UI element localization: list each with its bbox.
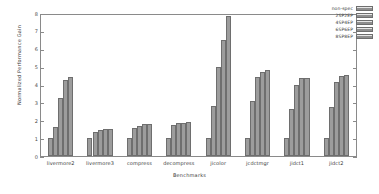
x-tick-label-livermore2: livermore2 — [41, 160, 80, 166]
bar-jidct1-8SP8EP — [304, 78, 309, 156]
bar-decompress-8SP8EP — [186, 122, 191, 156]
bar-livermore2-8SP8EP — [68, 77, 73, 156]
legend-item-8SP8EP: 8SP8EP — [332, 33, 373, 39]
legend-label-2SP2EP: 2SP2EP — [336, 13, 353, 18]
legend-swatch-non-spec — [356, 6, 373, 11]
x-tick-label-jidct1: jidct1 — [277, 160, 316, 166]
legend-swatch-6SP6EP — [356, 27, 373, 32]
x-tick-label-decompress: decompress — [159, 160, 198, 166]
legend-label-6SP6EP: 6SP6EP — [336, 27, 353, 32]
legend: non-spec2SP2EP4SP4EP6SP6EP8SP8EP — [329, 3, 376, 41]
legend-label-8SP8EP: 8SP8EP — [336, 34, 353, 39]
x-tick-label-jicolor: jicolor — [199, 160, 238, 166]
legend-item-6SP6EP: 6SP6EP — [332, 26, 373, 32]
x-tick-label-compress: compress — [120, 160, 159, 166]
bars-layer — [41, 15, 356, 156]
x-tick-label-jidct2: jidct2 — [317, 160, 356, 166]
y-axis-title: Normalized Performance Gain — [16, 0, 22, 130]
x-tick-label-jcdctmgr: jcdctmgr — [238, 160, 277, 166]
x-tick-label-livermore3: livermore3 — [80, 160, 119, 166]
y-tick-mark-0 — [40, 157, 44, 158]
bar-jicolor-8SP8EP — [226, 16, 231, 156]
legend-label-non-spec: non-spec — [332, 6, 353, 11]
legend-swatch-4SP4EP — [356, 20, 373, 25]
bar-jcdctmgr-8SP8EP — [265, 70, 270, 156]
legend-item-2SP2EP: 2SP2EP — [332, 12, 373, 18]
legend-item-non-spec: non-spec — [332, 5, 373, 11]
legend-swatch-2SP2EP — [356, 13, 373, 18]
y-tick-label-0: 0 — [0, 155, 38, 160]
bar-livermore3-8SP8EP — [108, 129, 113, 156]
legend-label-4SP4EP: 4SP4EP — [336, 20, 353, 25]
legend-swatch-8SP8EP — [356, 34, 373, 39]
bar-compress-8SP8EP — [147, 124, 152, 156]
y-tick-label-1: 1 — [0, 137, 38, 142]
legend-item-4SP4EP: 4SP4EP — [332, 19, 373, 25]
x-axis-title: Benchmarks — [0, 172, 379, 178]
bar-chart: 012345678 Normalized Performance Gain li… — [0, 0, 379, 194]
bar-jidct2-8SP8EP — [344, 75, 349, 156]
y-tick-mark-right-0 — [353, 157, 357, 158]
